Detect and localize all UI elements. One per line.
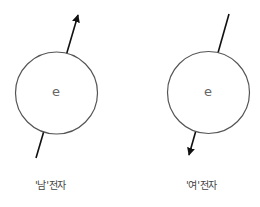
electron-spin-diagram [0, 0, 260, 207]
female-electron-label: '여'전자 [186, 177, 217, 192]
electron-symbol-right: e [204, 84, 212, 99]
electron-symbol-left: e [52, 84, 60, 99]
male-electron-label: '남'전자 [35, 177, 66, 192]
